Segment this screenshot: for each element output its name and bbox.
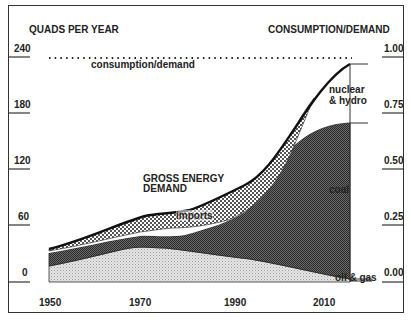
right-tick-0-25: 0.25 [384,211,403,222]
right-axis-title: CONSUMPTION/DEMAND [268,24,390,35]
right-axis [382,57,404,282]
right-tick-1-00: 1.00 [384,43,403,54]
left-tick-120: 120 [14,155,31,166]
left-tick-60: 60 [18,211,29,222]
gross-demand-label-2: DEMAND [143,183,187,194]
consumption-demand-label: consumption/demand [91,59,195,70]
nuclear-hydro-label-1: nuclear [329,84,365,95]
right-tick-0-50: 0.50 [384,155,403,166]
x-tick-2010: 2010 [313,297,335,308]
x-tick-1970: 1970 [129,297,151,308]
right-tick-0-00: 0.00 [384,267,403,278]
left-tick-240: 240 [14,43,31,54]
left-axis [8,57,30,282]
left-tick-0: 0 [22,267,28,278]
coal-label: coal [329,184,349,195]
x-tick-1990: 1990 [224,297,246,308]
oil-gas-label: oil & gas [335,272,377,283]
x-tick-1950: 1950 [39,297,61,308]
right-tick-0-75: 0.75 [384,99,403,110]
imports-label: imports [176,210,213,221]
nuclear-hydro-label-2: & hydro [329,95,367,106]
left-axis-title: QUADS PER YEAR [29,24,119,35]
left-tick-180: 180 [14,99,31,110]
